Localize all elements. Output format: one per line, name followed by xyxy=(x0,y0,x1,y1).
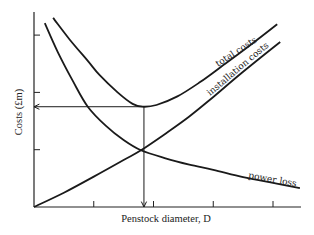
x-axis-label: Penstock diameter, D xyxy=(121,213,211,224)
x-axis-label-text: Penstock diameter, D xyxy=(121,213,211,224)
power-loss-label: power loss xyxy=(248,170,298,188)
x-axis-ticks xyxy=(94,201,273,207)
y-axis-label: Costs (£m) xyxy=(13,88,25,135)
y-axis-ticks xyxy=(34,35,40,150)
optimum-guides xyxy=(34,104,147,207)
cost-optimisation-chart: total costs installation costs power los… xyxy=(0,0,314,235)
